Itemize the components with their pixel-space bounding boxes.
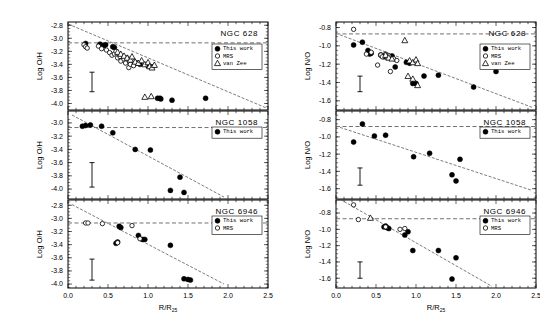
data-point xyxy=(410,248,415,253)
scatter-figure: -2.8-3.0-3.2-3.4-3.6-3.8-4.0NGC 628This … xyxy=(0,0,540,325)
x-tick-label: 1.5 xyxy=(451,292,461,299)
panel-title-top-left: NGC 628 xyxy=(220,29,258,38)
legend-label-mrs: MRS xyxy=(491,53,502,60)
data-point xyxy=(458,157,463,162)
y-tick-label: -1.0 xyxy=(319,133,331,140)
y-tick-label: -1.6 xyxy=(319,275,331,282)
figure-container: -2.8-3.0-3.2-3.4-3.6-3.8-4.0NGC 628This … xyxy=(0,0,540,325)
y-tick-label: -3.8 xyxy=(51,267,63,274)
data-point xyxy=(422,74,427,79)
legend-marker-this-work xyxy=(483,129,488,134)
data-point xyxy=(182,190,187,195)
data-point xyxy=(170,98,175,103)
x-tick-label: 1.0 xyxy=(411,292,421,299)
x-tick-label: 0.0 xyxy=(63,292,73,299)
data-point xyxy=(383,225,387,229)
data-point xyxy=(402,37,408,42)
data-point xyxy=(450,277,455,282)
y-axis-label: Log O/H xyxy=(35,141,44,169)
y-tick-label: -3.6 xyxy=(51,74,63,81)
data-point xyxy=(360,121,365,126)
data-point xyxy=(351,140,356,145)
legend-marker-this-work xyxy=(215,46,220,51)
legend-label-mrs: MRS xyxy=(223,225,234,232)
y-tick-label: -2.8 xyxy=(51,202,63,209)
y-tick-label: -0.8 xyxy=(319,24,331,31)
data-point xyxy=(178,175,183,180)
data-point xyxy=(168,243,173,248)
data-point xyxy=(133,147,138,152)
data-point xyxy=(411,154,416,159)
data-point xyxy=(115,240,119,244)
y-tick-label: -3.6 xyxy=(51,254,63,261)
x-tick-label: 2.0 xyxy=(491,292,501,299)
y-tick-label: -3.6 xyxy=(51,159,63,166)
y-tick-label: -0.8 xyxy=(319,116,331,123)
y-tick-label: -4.0 xyxy=(51,280,63,287)
legend-marker-mrs xyxy=(483,226,487,230)
data-point xyxy=(158,96,163,101)
legend-marker-mrs xyxy=(215,226,219,230)
y-tick-label: -3.2 xyxy=(51,133,63,140)
fit-line xyxy=(340,199,492,286)
data-point xyxy=(454,178,459,183)
legend-label-this-work: This work xyxy=(491,128,522,135)
panel-title-bottom-left: NGC 6946 xyxy=(215,207,258,216)
panel-middle-left: -3.0-3.2-3.4-3.6-3.8-4.0NGC 1058This wor… xyxy=(35,111,268,199)
data-point xyxy=(471,85,476,90)
panel-title-middle-left: NGC 1058 xyxy=(215,118,258,127)
data-point xyxy=(360,40,365,45)
y-tick-label: -3.4 xyxy=(51,241,63,248)
data-point xyxy=(83,123,88,128)
data-point xyxy=(372,134,377,139)
data-point xyxy=(454,255,459,260)
legend-label-van-zee: van Zee xyxy=(223,60,247,67)
panel-top-right: -0.8-1.0-1.2-1.4-1.6NGC 628This workMRSv… xyxy=(303,22,536,110)
data-point xyxy=(427,151,432,156)
x-tick-label: 2.5 xyxy=(263,292,273,299)
y-tick-label: -0.8 xyxy=(319,209,331,216)
data-point xyxy=(129,54,135,59)
x-tick-label: 1.0 xyxy=(143,292,153,299)
data-point xyxy=(436,248,441,253)
y-axis-label: Log O/H xyxy=(35,230,44,258)
data-point xyxy=(364,52,368,56)
data-point xyxy=(99,47,103,51)
y-axis-label: Log N/O xyxy=(303,230,312,258)
legend-marker-this-work xyxy=(483,46,488,51)
y-axis-label: Log N/O xyxy=(303,141,312,169)
data-point xyxy=(103,42,108,47)
data-point xyxy=(168,188,173,193)
y-tick-label: -1.0 xyxy=(319,226,331,233)
data-point xyxy=(203,96,208,101)
panel-title-middle-right: NGC 1058 xyxy=(483,118,526,127)
legend-marker-this-work xyxy=(483,218,488,223)
y-tick-label: -3.2 xyxy=(51,48,63,55)
x-tick-label: 1.5 xyxy=(183,292,193,299)
data-point xyxy=(148,148,153,153)
y-tick-label: -3.0 xyxy=(51,35,63,42)
y-tick-label: -4.0 xyxy=(51,185,63,192)
y-tick-label: -2.8 xyxy=(51,22,63,29)
y-axis-label: Log N/O xyxy=(303,52,312,80)
data-point xyxy=(403,226,407,230)
y-axis-label: Log O/H xyxy=(35,52,44,80)
panel-middle-right: -0.8-1.0-1.2-1.4-1.6NGC 1058This workLog… xyxy=(303,111,536,199)
x-tick-label: 0.0 xyxy=(331,292,341,299)
data-point xyxy=(375,63,379,67)
legend-marker-this-work xyxy=(215,129,220,134)
data-point xyxy=(351,203,355,207)
y-tick-label: -1.4 xyxy=(319,258,331,265)
panel-title-bottom-right: NGC 6946 xyxy=(483,207,526,216)
data-point xyxy=(398,227,402,231)
data-point xyxy=(100,221,104,225)
data-point xyxy=(351,27,355,31)
data-point xyxy=(351,42,356,47)
y-tick-label: -3.0 xyxy=(51,215,63,222)
x-tick-label: 2.5 xyxy=(531,292,540,299)
data-point xyxy=(188,278,193,283)
x-axis-label: R/R25 xyxy=(159,303,178,313)
data-point xyxy=(388,69,392,73)
y-tick-label: -3.0 xyxy=(51,119,63,126)
data-point xyxy=(450,172,455,177)
